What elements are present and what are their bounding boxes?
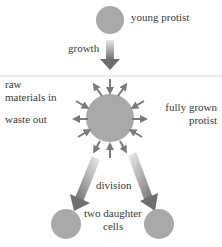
label-growth: growth xyxy=(68,42,99,55)
daughter-cell-right xyxy=(144,209,174,239)
growth-arrow-icon xyxy=(100,40,120,70)
label-protist: protist xyxy=(189,114,217,127)
daughter-cell-left xyxy=(51,209,81,239)
label-cells: cells xyxy=(103,220,123,233)
label-division: division xyxy=(96,179,131,192)
label-fully-grown: fully grown xyxy=(165,101,217,114)
label-young-protist: young protist xyxy=(131,11,189,24)
fully-grown-protist-cell xyxy=(86,94,134,142)
label-materials-in: materials in xyxy=(5,91,57,104)
label-raw: raw xyxy=(5,78,22,91)
label-waste-out: waste out xyxy=(5,113,47,126)
label-two-daughter: two daughter xyxy=(84,207,142,220)
division-arrow-right-icon xyxy=(128,152,158,211)
young-protist-cell xyxy=(96,6,124,34)
